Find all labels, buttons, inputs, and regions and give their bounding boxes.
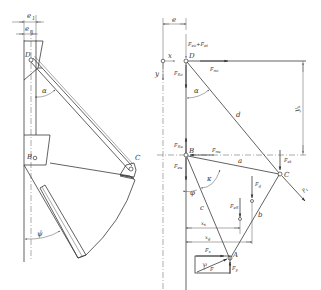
label-y: y [154, 70, 160, 78]
left-view: e 1 e n D α B [12, 12, 141, 262]
label-C-left: C [135, 154, 141, 162]
dimension-en: e n [16, 25, 38, 34]
label-en: e [25, 25, 29, 33]
pivot-B-left [33, 156, 37, 160]
link-b [231, 175, 279, 257]
label-Feu: Feu [173, 163, 183, 170]
label-Feo-plus-Fet: Feo+Fet [187, 41, 208, 48]
point-g [251, 200, 254, 203]
label-F: F [209, 266, 214, 272]
svg-text:1: 1 [32, 15, 35, 21]
svg-text:n: n [30, 28, 33, 34]
label-A: A [232, 251, 238, 259]
label-B-left: B [26, 153, 32, 161]
point-s [239, 218, 242, 221]
label-alpha-left: α [42, 87, 47, 95]
label-rho: ρ [203, 261, 207, 268]
link-a [188, 156, 279, 174]
label-Fnu: Fnu [211, 147, 221, 154]
label-Fg: Fg [254, 181, 261, 188]
label-alpha: α [194, 87, 199, 95]
label-D: D [188, 52, 195, 60]
label-D-left: D [24, 51, 31, 59]
label-b: b [258, 211, 263, 219]
origin-point [161, 59, 165, 63]
pivot-C-left [129, 167, 133, 171]
label-xs: xs [201, 220, 206, 227]
label-kappa: κ [206, 175, 212, 183]
pivot-B [184, 153, 188, 157]
mechanism-diagram: e 1 e n D α B [0, 0, 321, 290]
label-xg: xg [205, 234, 211, 241]
label-psi: ψ̄ [37, 230, 43, 238]
link-d [187, 62, 279, 173]
label-Ft: Ft [300, 186, 310, 196]
label-Fno: Fno [209, 66, 219, 73]
link-rod [30, 56, 133, 170]
label-c: c [200, 204, 204, 212]
label-Fy: Fy [231, 265, 238, 272]
label-B: B [188, 147, 194, 155]
label-x: x [168, 52, 172, 60]
upper-bracket [24, 41, 43, 80]
label-C: C [284, 171, 290, 179]
right-view: e x y Feo+Fet D Fno FSo α d yk [154, 16, 309, 290]
label-a: a [238, 157, 242, 165]
label-Fet: Fet [283, 157, 292, 164]
label-Fes: FeS [229, 203, 239, 210]
label-Fsu: FSu [173, 142, 183, 149]
psi-arc [25, 231, 60, 239]
label-e1: e [27, 12, 31, 20]
label-phi: φ [190, 189, 195, 197]
label-d: d [236, 111, 241, 119]
label-e: e [172, 16, 176, 24]
label-Fx: Fx [204, 247, 211, 254]
label-yk: yk [293, 105, 301, 113]
label-Fso: FSo [173, 70, 183, 77]
